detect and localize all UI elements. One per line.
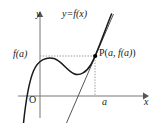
function-curve <box>24 14 112 123</box>
point-p-value: f(a) <box>118 47 132 58</box>
point-p-marker <box>93 54 97 58</box>
y-value-label: f(a) <box>13 49 27 59</box>
graph-figure: y x O f(a) a y=f(x) P(a, f(a)) <box>0 0 157 123</box>
point-p-label: P(a, f(a)) <box>99 48 136 58</box>
origin-label: O <box>29 95 36 105</box>
curve-equation-label: y=f(x) <box>62 9 87 19</box>
y-axis-label: y <box>36 9 40 19</box>
x-value-label: a <box>102 97 107 107</box>
point-p-prefix: P( <box>99 47 108 58</box>
x-axis-label: x <box>144 97 148 107</box>
point-p-suffix: ) <box>132 47 135 58</box>
